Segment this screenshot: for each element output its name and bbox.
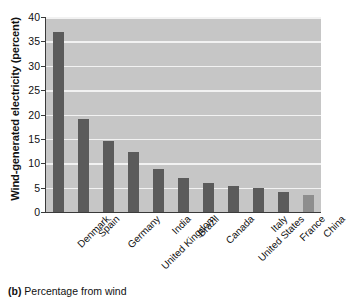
bar	[203, 183, 215, 212]
bar	[78, 119, 90, 212]
y-tick-label: 30	[18, 61, 40, 72]
bar	[278, 192, 290, 212]
y-tick-label: 15	[18, 134, 40, 145]
x-tick-label: Canada	[224, 214, 256, 246]
bar	[228, 186, 240, 212]
y-axis-tick-labels: 4035302520151050	[18, 17, 40, 212]
y-tick-mark	[41, 90, 46, 91]
y-tick-mark	[41, 139, 46, 140]
y-tick-label: 20	[18, 109, 40, 120]
y-tick-label: 5	[18, 182, 40, 193]
y-tick-mark	[41, 163, 46, 164]
bar	[103, 141, 115, 212]
bar	[53, 32, 65, 212]
bar	[253, 188, 265, 212]
bar	[128, 152, 140, 212]
caption-text: Percentage from wind	[21, 285, 126, 297]
y-tick-mark	[41, 115, 46, 116]
y-tick-mark	[41, 212, 46, 213]
y-tick-label: 0	[18, 207, 40, 218]
x-tick-label: Brazil	[196, 214, 221, 239]
y-tick-mark	[41, 188, 46, 189]
y-tick-mark	[41, 66, 46, 67]
y-tick-label: 40	[18, 12, 40, 23]
figure-caption: (b) Percentage from wind	[8, 285, 126, 297]
y-tick-label: 25	[18, 85, 40, 96]
bar	[153, 169, 165, 212]
y-tick-label: 35	[18, 36, 40, 47]
y-tick-label: 10	[18, 158, 40, 169]
y-tick-mark	[41, 17, 46, 18]
x-tick-label: Germany	[126, 214, 163, 251]
x-axis-category-labels: DenmarkSpainGermanyUnited KingdomIndiaBr…	[46, 214, 321, 276]
y-tick-mark	[41, 41, 46, 42]
x-tick-label: China	[321, 214, 347, 240]
bar	[303, 195, 315, 212]
bar	[178, 178, 190, 212]
plot-area	[46, 17, 321, 212]
caption-label: (b)	[8, 285, 21, 297]
bars-group	[46, 17, 321, 212]
